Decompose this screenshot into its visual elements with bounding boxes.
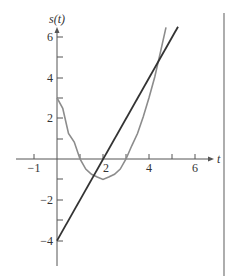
y-tick-label: −4: [40, 234, 53, 248]
x-tick-label: 2: [103, 161, 109, 175]
parabola-curve: [57, 27, 166, 179]
y-tick-label: −2: [40, 193, 53, 207]
x-axis-label: t: [217, 152, 221, 166]
y-tick-label: 4: [47, 71, 53, 85]
y-axis-arrow-icon: [55, 27, 60, 33]
y-tick-label: 2: [47, 111, 53, 125]
x-tick-label: 6: [192, 161, 198, 175]
x-tick-label: 4: [146, 161, 152, 175]
y-axis: 6 4 2 −2 −4 s(t): [40, 12, 65, 266]
tangent-line: [57, 27, 178, 241]
x-tick-label: −1: [28, 161, 41, 175]
y-axis-label: s(t): [49, 12, 65, 26]
chart: −1 2 4 6 t 6 4 2 −2 −4 s(t): [0, 0, 228, 276]
y-tick-label: 6: [47, 30, 53, 44]
x-axis-arrow-icon: [208, 157, 214, 162]
